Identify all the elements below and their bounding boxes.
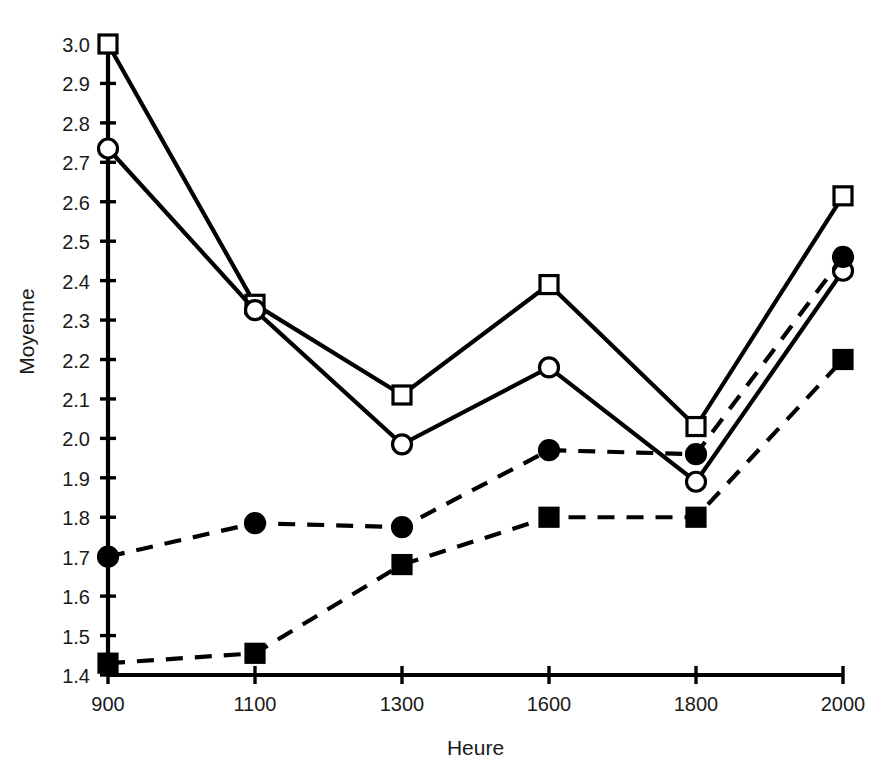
marker-filled-square (834, 351, 852, 369)
x-tick-label: 2000 (821, 693, 866, 715)
marker-open-circle (540, 358, 559, 377)
y-tick-label: 1.9 (62, 468, 90, 490)
marker-open-square (540, 276, 558, 294)
marker-filled-circle (834, 247, 853, 266)
series-layer (99, 35, 853, 672)
series-open-square (99, 35, 852, 436)
y-tick-label: 1.4 (62, 665, 90, 687)
y-tick-label: 2.1 (62, 389, 90, 411)
line-chart: 1.41.51.61.71.81.92.02.12.22.32.42.52.62… (0, 0, 889, 766)
marker-filled-square (540, 508, 558, 526)
marker-filled-square (99, 654, 117, 672)
marker-filled-circle (540, 441, 559, 460)
y-tick-label: 3.0 (62, 34, 90, 56)
y-tick-label: 1.6 (62, 586, 90, 608)
marker-open-circle (687, 472, 706, 491)
axes-group (108, 44, 843, 675)
chart-figure: 1.41.51.61.71.81.92.02.12.22.32.42.52.62… (0, 0, 889, 766)
marker-open-circle (99, 139, 118, 158)
y-tick-label: 1.8 (62, 507, 90, 529)
marker-filled-circle (246, 514, 265, 533)
y-axis-title: Moyenne (15, 288, 38, 374)
x-axis-title: Heure (447, 736, 504, 759)
y-tick-label: 2.6 (62, 192, 90, 214)
y-tick-label: 2.2 (62, 350, 90, 372)
series-line-open-square (108, 44, 843, 427)
marker-open-circle (246, 301, 265, 320)
marker-open-square (687, 418, 705, 436)
marker-open-square (99, 35, 117, 53)
y-tick-label: 1.5 (62, 626, 90, 648)
y-tick-label: 2.9 (62, 73, 90, 95)
marker-filled-square (687, 508, 705, 526)
x-tick-label: 900 (91, 693, 124, 715)
y-tick-label: 2.4 (62, 271, 90, 293)
series-open-circle (99, 139, 853, 491)
series-line-open-circle (108, 149, 843, 482)
marker-filled-circle (99, 547, 118, 566)
marker-open-square (393, 386, 411, 404)
marker-filled-square (246, 644, 264, 662)
y-tick-label: 2.7 (62, 152, 90, 174)
y-tick-label: 2.0 (62, 428, 90, 450)
marker-open-circle (393, 435, 412, 454)
y-tick-label: 2.8 (62, 113, 90, 135)
x-tick-label: 1100 (233, 693, 276, 715)
marker-filled-circle (393, 518, 412, 537)
x-tick-label: 1300 (380, 693, 425, 715)
y-tick-label: 2.3 (62, 310, 90, 332)
marker-open-square (834, 187, 852, 205)
y-tick-label: 1.7 (62, 547, 90, 569)
y-tick-label: 2.5 (62, 231, 90, 253)
marker-filled-square (393, 556, 411, 574)
x-tick-label: 1800 (674, 693, 719, 715)
x-tick-label: 1600 (527, 693, 572, 715)
marker-filled-circle (687, 445, 706, 464)
